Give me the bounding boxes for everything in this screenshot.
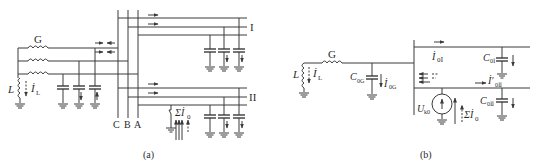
svg-text:0G: 0G <box>357 78 365 84</box>
svg-text:k0: k0 <box>424 109 430 115</box>
caption-a: (a) <box>143 149 154 161</box>
svg-text:C: C <box>483 52 490 63</box>
svg-text:L: L <box>36 89 40 97</box>
winding-icon <box>28 72 48 74</box>
fault-a: Σİ 0 <box>166 105 191 140</box>
svg-text:İ: İ <box>431 51 436 62</box>
busbars-a: C B A <box>113 10 142 130</box>
inductor-label: L <box>292 68 299 80</box>
svg-text:0Ⅱ: 0Ⅱ <box>487 101 494 107</box>
line-i-b: İ 0Ⅰ C 0Ⅰ <box>414 42 530 78</box>
winding-icon <box>28 46 48 48</box>
bus-arrows-b <box>419 74 438 82</box>
generator-label: G <box>34 33 42 45</box>
fault-lightning-icon <box>169 105 171 114</box>
gen-capacitors-a <box>57 48 101 108</box>
svg-text:0G: 0G <box>389 84 397 90</box>
svg-text:L: L <box>318 74 322 82</box>
bus-label-b: B <box>124 119 131 130</box>
svg-text:İ′: İ′ <box>487 75 494 86</box>
svg-text:0: 0 <box>187 113 191 121</box>
circuit-diagram: G L İ L <box>0 0 535 168</box>
svg-text:0: 0 <box>475 115 479 123</box>
neutral-inductor-a: L İ L <box>7 78 40 108</box>
svg-text:0Ⅰ: 0Ⅰ <box>490 58 496 64</box>
panel-b: L İ L G C 0G İ 0G <box>292 40 530 161</box>
inductor-icon <box>302 63 304 88</box>
svg-text:C: C <box>350 71 357 82</box>
line-label-ii: II <box>249 91 257 103</box>
bus-label-c: C <box>113 119 120 130</box>
svg-text:0Ⅱ: 0Ⅱ <box>495 82 502 88</box>
generator-b: G <box>304 48 414 63</box>
inductor-icon <box>18 78 20 98</box>
generator-a: G <box>18 33 48 78</box>
winding-icon <box>28 59 48 61</box>
caption-b: (b) <box>420 149 432 161</box>
svg-text:0Ⅰ: 0Ⅰ <box>437 56 444 64</box>
winding-icon <box>322 61 342 63</box>
bus-label-a: A <box>134 119 142 130</box>
svg-text:İ: İ <box>383 78 388 89</box>
inductor-label: L <box>7 83 14 95</box>
panel-a: G L İ L <box>7 10 257 161</box>
svg-text:C: C <box>480 95 487 106</box>
line-label-i: I <box>250 21 254 33</box>
neutral-inductor-b: L İ L <box>292 63 322 97</box>
svg-text:Σİ: Σİ <box>463 109 474 120</box>
generator-label: G <box>328 48 336 60</box>
gen-capacitor-b: C 0G İ 0G <box>350 63 397 99</box>
fault-current-label: Σİ <box>174 107 185 118</box>
zero-seq-source-b: U k0 Σİ 0 <box>417 88 479 124</box>
